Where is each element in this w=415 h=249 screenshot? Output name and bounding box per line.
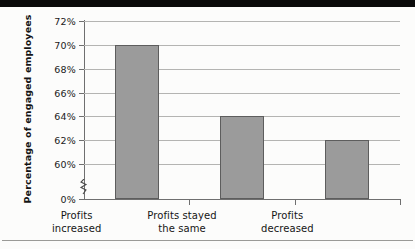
gridline — [84, 21, 400, 22]
y-axis-tick-label: 64% — [54, 111, 76, 122]
y-axis-tick-label: 60% — [54, 159, 76, 170]
axis-break-icon — [79, 179, 91, 195]
y-axis-tick — [79, 140, 84, 141]
y-axis-tick — [79, 21, 84, 22]
x-axis-category-label-line: Profits — [227, 209, 347, 222]
y-axis-tick — [79, 93, 84, 94]
x-axis-category-label-line: increased — [17, 222, 137, 235]
y-axis-tick-label: 70% — [54, 39, 76, 50]
x-axis-line — [84, 199, 400, 200]
y-axis-tick — [79, 199, 84, 200]
x-axis-category-label-line: decreased — [227, 222, 347, 235]
x-axis-category-label-line: Profits — [17, 209, 137, 222]
y-axis-tick — [79, 69, 84, 70]
bar-chart-figure: Percentage of engaged employees 72%70%68… — [0, 0, 415, 249]
bar — [325, 140, 369, 199]
y-axis-line — [84, 20, 85, 200]
y-axis-tick-label: 72% — [54, 16, 76, 27]
x-axis-category-label: Profitsdecreased — [227, 209, 347, 235]
bar — [220, 116, 264, 199]
x-axis-tick — [189, 199, 190, 205]
y-axis-tick-label: 0% — [61, 194, 76, 205]
y-axis-title-text: Percentage of engaged employees — [22, 15, 34, 204]
y-axis-tick-label: 68% — [54, 63, 76, 74]
plot-area: 72%70%68%66%64%62%60%0%ProfitsincreasedP… — [84, 21, 400, 199]
bar — [115, 45, 159, 199]
y-axis-tick — [79, 45, 84, 46]
y-axis-title-line-1: Percentage of engaged — [22, 77, 33, 204]
x-axis-tick — [400, 199, 401, 205]
y-axis-tick — [79, 116, 84, 117]
y-axis-tick-label: 66% — [54, 87, 76, 98]
x-axis-tick — [295, 199, 296, 205]
x-axis-category-label: Profitsincreased — [17, 209, 137, 235]
x-axis-category-label: Profits stayedthe same — [122, 209, 242, 235]
page-bottom-rule — [2, 240, 413, 241]
y-axis-tick — [79, 164, 84, 165]
page-top-band — [0, 0, 415, 7]
x-axis-category-label-line: Profits stayed — [122, 209, 242, 222]
y-axis-title: Percentage of engaged employees — [10, 14, 46, 204]
y-axis-title-line-2: employees — [22, 15, 33, 74]
x-axis-category-label-line: the same — [122, 222, 242, 235]
y-axis-tick-label: 62% — [54, 135, 76, 146]
